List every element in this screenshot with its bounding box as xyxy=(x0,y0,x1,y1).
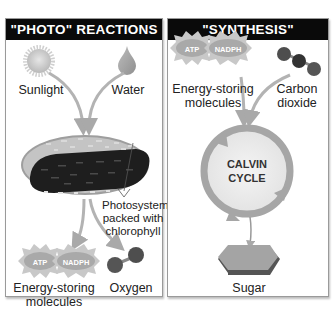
photosystems-annotation: Photosystems packed with chlorophyll xyxy=(102,199,164,238)
chloroplast-icon xyxy=(21,135,150,195)
sugar-hexagon-icon xyxy=(218,245,280,275)
nadph-badge: NADPH xyxy=(210,43,246,57)
label-line-2: molecules xyxy=(170,96,256,110)
annotation-line-2: packed with xyxy=(102,212,164,225)
sugar-label: Sugar xyxy=(224,281,274,295)
carbon-dioxide-molecule-icon xyxy=(277,47,321,76)
label-line-1: Carbon xyxy=(272,82,322,96)
water-label: Water xyxy=(106,83,150,97)
oxygen-label: Oxygen xyxy=(108,281,154,295)
synthesis-reactions-panel: "SYNTHESIS" REACTIONS xyxy=(167,18,329,297)
photo-reactions-illustration xyxy=(6,19,162,296)
label-line-2: molecules xyxy=(11,295,97,309)
carbon-dioxide-label: Carbon dioxide xyxy=(272,82,322,110)
annotation-line-3: chlorophyll xyxy=(102,225,164,238)
calvin-cycle-label: CALVIN CYCLE xyxy=(217,157,277,185)
label-line-2: dioxide xyxy=(272,96,322,110)
energy-storing-molecules-label: Energy-storing molecules xyxy=(170,82,256,110)
cycle-line-1: CALVIN xyxy=(217,157,277,171)
water-drop-icon xyxy=(118,46,136,75)
photo-reactions-panel: "PHOTO" REACTIONS xyxy=(5,18,163,297)
sun-icon xyxy=(25,47,53,75)
cycle-line-2: CYCLE xyxy=(217,171,277,185)
atp-badge: ATP xyxy=(182,43,202,57)
sunlight-label: Sunlight xyxy=(15,83,67,97)
nadph-badge: NADPH xyxy=(58,256,94,270)
label-line-1: Energy-storing xyxy=(11,281,97,295)
energy-storing-molecules-label: Energy-storing molecules xyxy=(11,281,97,309)
atp-badge: ATP xyxy=(30,256,50,270)
label-line-1: Energy-storing xyxy=(170,82,256,96)
annotation-line-1: Photosystems xyxy=(102,199,164,212)
oxygen-molecule-icon xyxy=(107,247,144,273)
